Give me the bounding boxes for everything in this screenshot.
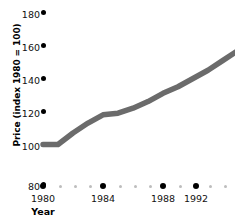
line-chart: Price (index 1980 = 100) 180 160 140 120… <box>0 0 235 218</box>
x-minor-tick-1982 <box>74 185 77 188</box>
x-minor-tick-1991 <box>209 185 212 188</box>
x-major-tick-1980 <box>40 183 46 189</box>
x-minor-tick-1993 <box>224 185 227 188</box>
x-tick-label-1980: 1980 <box>23 194 63 204</box>
x-minor-tick-1981 <box>59 185 62 188</box>
x-minor-tick-1986 <box>134 185 137 188</box>
plot-area <box>0 0 235 218</box>
x-major-tick-1992 <box>193 183 199 189</box>
x-minor-tick-1987 <box>149 185 152 188</box>
x-major-tick-1984 <box>100 183 106 189</box>
x-minor-tick-1983 <box>89 185 92 188</box>
x-minor-tick-1985 <box>119 185 122 188</box>
x-tick-label-1992: 1992 <box>176 194 216 204</box>
x-axis-title: Year <box>13 206 73 217</box>
data-series-line <box>43 50 235 144</box>
x-major-tick-1988 <box>160 183 166 189</box>
x-tick-label-1984: 1984 <box>83 194 123 204</box>
x-minor-tick-1989 <box>179 185 182 188</box>
